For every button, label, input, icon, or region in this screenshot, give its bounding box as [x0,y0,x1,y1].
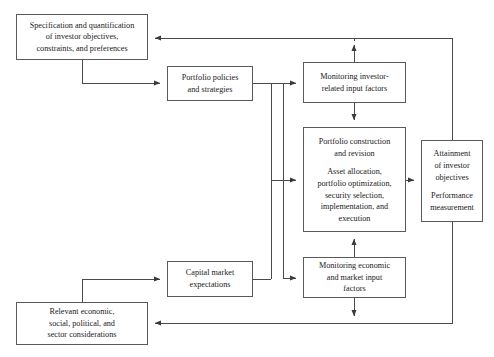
node-portfolio-policies: Portfolio policies and strategies [167,66,253,101]
node-capital-market-expectations: Capital market expectations [167,261,253,297]
node-relevant-considerations: Relevant economic, social, political, an… [16,302,148,345]
node-portfolio-construction-detail-line-3: security selection, [317,190,391,202]
node-attainment-detail-line-2: measurement [430,202,474,214]
node-specification-line-1: Specification and quantification [30,20,135,32]
node-attainment-line-2: of investor [434,160,471,172]
node-capital-market-line-2: expectations [190,279,231,291]
node-specification: Specification and quantification of inve… [16,14,148,60]
node-monitoring-investor-line-1: Monitoring investor- [320,71,388,83]
node-relevant-line-1: Relevant economic, [49,306,114,318]
node-monitoring-economic-line-3: factors [343,283,365,295]
node-portfolio-construction-detail: Asset allocation, portfolio optimization… [317,166,391,224]
edge-policies-trunk [253,83,271,279]
node-attainment-line-3: objectives [434,172,471,184]
node-portfolio-policies-line-1: Portfolio policies [182,72,239,84]
node-portfolio-construction-heading: Portfolio construction and revision [319,136,391,159]
node-capital-market-line-1: Capital market [186,267,234,279]
node-relevant-line-2: social, political, and [49,318,115,330]
node-monitoring-investor-line-2: related input factors [322,83,387,95]
node-portfolio-policies-line-2: and strategies [188,84,233,96]
node-attainment-line-1: Attainment [434,148,471,160]
node-monitoring-economic-factors: Monitoring economic and market input fac… [303,257,406,298]
node-monitoring-investor-factors: Monitoring investor- related input facto… [303,62,406,103]
node-attainment-heading: Attainment of investor objectives [434,148,471,183]
node-portfolio-construction-line-1: Portfolio construction [319,136,391,148]
node-portfolio-construction-line-2: and revision [319,148,391,160]
node-attainment-detail: Performance measurement [430,190,474,213]
edge-relevant-to-capital [82,279,160,302]
portfolio-management-flowchart: Specification and quantification of inve… [0,0,494,357]
node-portfolio-construction-detail-line-4: implementation, and [317,201,391,213]
node-portfolio-construction: Portfolio construction and revision Asse… [303,127,406,232]
node-attainment-detail-line-1: Performance [430,190,474,202]
node-specification-line-3: constraints, and preferences [36,43,127,55]
node-relevant-line-3: sector considerations [48,329,117,341]
node-portfolio-construction-detail-line-5: execution [317,213,391,225]
node-monitoring-economic-line-2: and market input [327,272,382,284]
node-attainment-of-objectives: Attainment of investor objectives Perfor… [421,140,483,222]
node-monitoring-economic-line-1: Monitoring economic [319,260,390,272]
edge-spec-to-policies [82,60,160,83]
node-portfolio-construction-detail-line-1: Asset allocation, [317,166,391,178]
node-specification-line-2: of investor objectives, [46,31,119,43]
node-portfolio-construction-detail-line-2: portfolio optimization, [317,178,391,190]
